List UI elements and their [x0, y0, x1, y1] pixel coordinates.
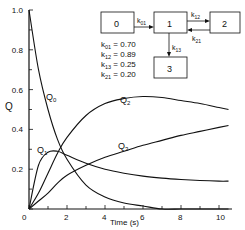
- rate-k12: k12 = 0.89: [101, 50, 136, 60]
- label-q0: Q0: [46, 92, 57, 103]
- rate-constants: k01 = 0.70 k12 = 0.89 k13 = 0.25 k21 = 0…: [101, 40, 136, 80]
- svg-text:0.4: 0.4: [12, 125, 24, 134]
- box-1-label: 1: [167, 19, 172, 29]
- arrow-k01: k01: [137, 17, 146, 26]
- box-3-label: 3: [167, 64, 172, 74]
- svg-text:4: 4: [102, 213, 107, 222]
- arrow-k12: k12: [191, 11, 200, 20]
- rate-k01: k01 = 0.70: [101, 40, 136, 50]
- label-q1: Q1: [37, 145, 48, 156]
- svg-text:0.2: 0.2: [12, 165, 24, 174]
- svg-text:0.8: 0.8: [12, 46, 24, 55]
- box-0-label: 0: [114, 19, 119, 29]
- svg-text:8: 8: [178, 213, 183, 222]
- svg-text:6: 6: [140, 213, 145, 222]
- svg-text:0.6: 0.6: [12, 86, 24, 95]
- svg-text:2: 2: [64, 213, 69, 222]
- rate-k21: k21 = 0.20: [101, 70, 136, 80]
- label-q2: Q2: [120, 95, 131, 106]
- curve-q2: [29, 97, 229, 209]
- rate-k13: k13 = 0.25: [101, 60, 136, 70]
- y-axis-label: Q: [5, 101, 13, 112]
- label-q3: Q3: [118, 141, 129, 152]
- svg-text:0: 0: [22, 213, 27, 222]
- arrow-k21: k21: [192, 35, 201, 44]
- x-axis-label: Time (s): [110, 218, 139, 227]
- svg-text:1.0: 1.0: [12, 6, 24, 15]
- box-2-label: 2: [222, 19, 227, 29]
- arrow-k13: k13: [172, 44, 181, 53]
- svg-text:10: 10: [216, 213, 225, 222]
- curve-q1: [29, 151, 229, 209]
- curve-q3: [29, 125, 229, 209]
- chart: 02468100.20.40.60.81.0 Q Time (s) Q0 Q1 …: [0, 0, 245, 230]
